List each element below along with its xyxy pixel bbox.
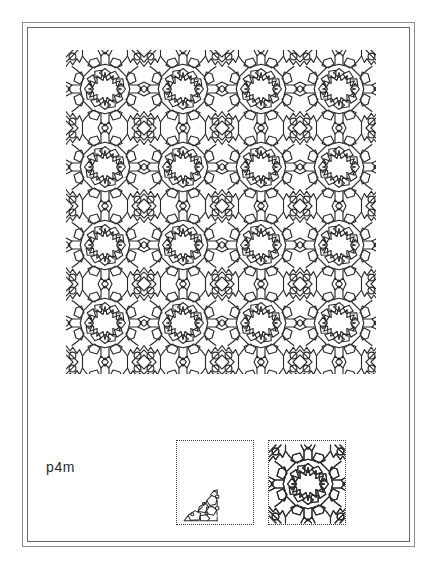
main-pattern-svg bbox=[66, 50, 376, 374]
fundamental-domain-cell bbox=[176, 440, 254, 525]
legend-row: p4m bbox=[27, 432, 410, 534]
unit-cell-svg bbox=[268, 440, 346, 525]
unit-cell bbox=[268, 440, 346, 525]
fundamental-domain-svg bbox=[176, 440, 254, 525]
plate: p4m bbox=[0, 0, 440, 575]
main-pattern-field bbox=[66, 50, 376, 374]
pattern-tiling-rect bbox=[66, 50, 376, 374]
wallpaper-group-label: p4m bbox=[46, 459, 75, 475]
